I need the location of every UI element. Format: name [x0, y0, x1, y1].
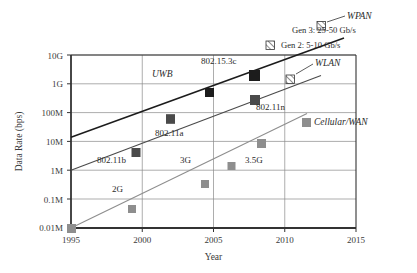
annotation-802-11n: 802.11n [256, 102, 285, 112]
data-rate-vs-year-chart: 10G 1G 100M 10M 1M 0.1M 0.01M 1995 2000 … [0, 0, 417, 273]
x-tick-label-2005: 2005 [205, 235, 224, 245]
annotation-2G: 2G [112, 184, 124, 194]
x-tick-label-2015: 2015 [347, 235, 366, 245]
projection-marker-wlan-next [286, 75, 295, 84]
y-tick-label-10M: 10M [46, 137, 63, 147]
y-tick-label-10G: 10G [48, 51, 64, 61]
data-point-3G [228, 162, 236, 170]
annotation-3-5G: 3.5G [245, 155, 263, 165]
annotation-3G: 3G [180, 155, 192, 165]
chart-figure: 10G 1G 100M 10M 1M 0.1M 0.01M 1995 2000 … [0, 0, 417, 273]
annotation-802-11a: 802.11a [155, 128, 183, 138]
data-point [302, 118, 311, 127]
annotation-802-11b: 802.11b [97, 155, 126, 165]
annotation-802-15-3c: 802.15.3c [201, 56, 237, 66]
data-point-802-15-3c [249, 70, 260, 81]
y-tick-label-100M: 100M [41, 108, 63, 118]
annotation-gen2: Gen 2: 5-10 Gb/s [281, 40, 341, 50]
annotation-gen3: Gen 3: 25-50 Gb/s [292, 25, 356, 35]
y-tick-label-1M: 1M [50, 166, 63, 176]
annotation-cellular-wan: Cellular/WAN [314, 117, 368, 127]
x-axis-title: Year [205, 252, 223, 262]
y-tick-label-0.1M: 0.1M [44, 195, 63, 205]
annotation-uwb: UWB [152, 69, 173, 79]
x-tick-label-2010: 2010 [276, 235, 295, 245]
data-point [67, 224, 76, 233]
data-point [201, 180, 209, 188]
x-tick-label-1995: 1995 [62, 235, 81, 245]
projection-marker-gen2 [266, 41, 275, 50]
y-tick-label-0.01M: 0.01M [39, 223, 63, 233]
annotation-wpan: WPAN [347, 11, 372, 21]
data-point [205, 88, 214, 97]
data-point-2G [128, 205, 136, 213]
x-tick-label-2000: 2000 [133, 235, 152, 245]
y-axis-title: Data Rate (bps) [14, 112, 25, 172]
data-point-802-11a [166, 115, 175, 124]
annotation-wlan: WLAN [315, 58, 341, 68]
y-tick-label-1G: 1G [52, 79, 64, 89]
data-point-3-5G [257, 139, 266, 148]
data-point-802-11b [132, 148, 141, 157]
